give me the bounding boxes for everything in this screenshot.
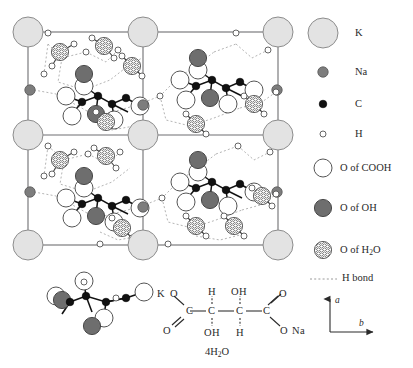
legend-icon-k bbox=[308, 18, 338, 48]
legend-icon-c bbox=[319, 100, 327, 108]
molecular-fragment bbox=[47, 272, 153, 335]
figure-canvas bbox=[0, 0, 413, 368]
legend-icon-na bbox=[318, 67, 328, 77]
atoms-o-cooh bbox=[57, 61, 263, 231]
formula-label-o-bottomright: O bbox=[280, 325, 288, 336]
formula-label-k: K bbox=[157, 288, 165, 299]
formula-label-o-bottomleft: O bbox=[163, 325, 171, 336]
formula-label-c2: C bbox=[208, 305, 215, 316]
legend-glyphs bbox=[308, 18, 338, 279]
formula-label-h-top1: H bbox=[208, 286, 216, 297]
legend-label-o-h2o: O of H2O bbox=[340, 245, 381, 256]
legend-icon-o-h2o bbox=[314, 241, 331, 258]
hydrate-label: 4H2O bbox=[205, 346, 229, 359]
formula-label-c3: C bbox=[236, 305, 243, 316]
legend-icon-h bbox=[320, 131, 326, 137]
formula-label-c1: C bbox=[186, 305, 193, 316]
crystal-structure-figure: K Na C H O of COOH O of OH O of H2O H bo… bbox=[0, 0, 413, 368]
legend-label-na: Na bbox=[355, 67, 367, 78]
axis-label-b: b bbox=[359, 318, 364, 328]
legend-label-o-oh: O of OH bbox=[340, 203, 377, 214]
formula-label-c4: C bbox=[263, 305, 270, 316]
formula-label-o-topright: O bbox=[279, 288, 287, 299]
legend-icon-o-cooh bbox=[314, 159, 332, 177]
legend-label-k: K bbox=[355, 28, 363, 39]
legend-label-h: H bbox=[355, 129, 363, 140]
formula-label-na: Na bbox=[292, 325, 305, 336]
formula-label-oh-bottom1: OH bbox=[204, 327, 220, 338]
legend-icon-o-oh bbox=[314, 199, 331, 216]
legend-label-h-bond: H bond bbox=[342, 273, 373, 284]
legend-label-c: C bbox=[355, 99, 362, 110]
axis-label-a: a bbox=[335, 295, 340, 305]
formula-label-h-bottom2: H bbox=[236, 327, 244, 338]
formula-label-o-topleft: O bbox=[170, 288, 178, 299]
legend-label-o-cooh: O of COOH bbox=[340, 163, 391, 174]
formula-label-oh-top2: OH bbox=[231, 286, 247, 297]
